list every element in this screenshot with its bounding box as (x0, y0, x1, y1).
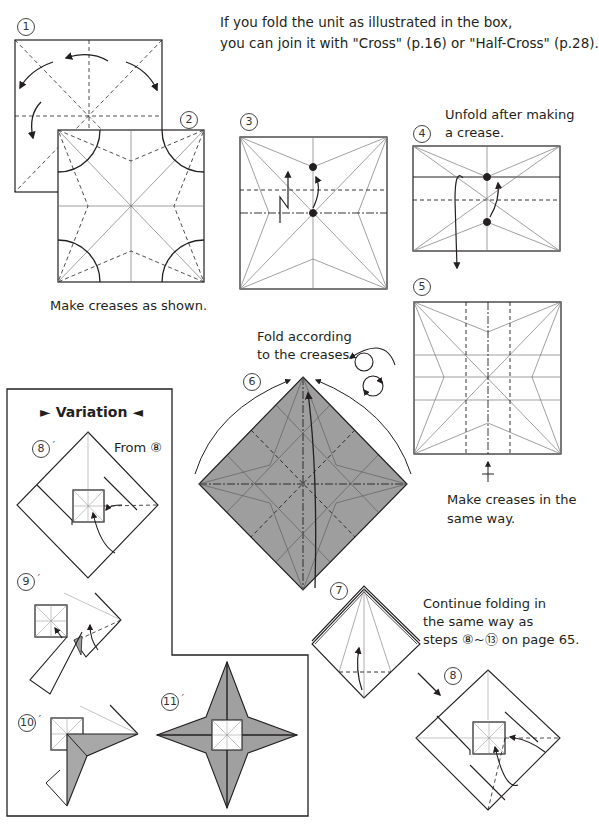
step-6-diagram (195, 348, 411, 590)
step-number-6: 6 (243, 373, 261, 391)
from-step-8-note: From ⑧ (114, 439, 162, 457)
step-6-caption-line-1: Fold according (257, 328, 352, 346)
step-7-caption-line-2: the same way as (423, 613, 533, 631)
step-number-4: 4 (413, 125, 431, 143)
step-11-prime-diagram (157, 662, 297, 808)
step-2-diagram (58, 130, 204, 282)
variation-title: ► Variation ◄ (40, 404, 143, 420)
step-4-caption-line-1: Unfold after making (445, 106, 574, 124)
step-number-10-prime: 10′ (18, 714, 36, 732)
intro-text: If you fold the unit as illustrated in t… (220, 12, 599, 54)
step-7-diagram (312, 586, 420, 698)
step-number-5: 5 (413, 278, 431, 296)
step-8-diagram (416, 670, 560, 810)
step-5-diagram (414, 302, 561, 482)
step-10-prime-diagram (46, 705, 138, 806)
step-5-caption-line-2: same way. (447, 510, 515, 528)
step-9-prime-diagram (30, 593, 121, 694)
step-4-diagram (413, 146, 560, 268)
step-number-1: 1 (17, 18, 35, 36)
step-6-caption-line-2: to the creases. (257, 346, 354, 364)
step-2-caption: Make creases as shown. (50, 297, 207, 315)
step-4-caption-line-2: a crease. (445, 124, 504, 142)
step-3-diagram (240, 137, 387, 289)
step-number-9-prime: 9′ (17, 573, 35, 591)
step-number-8-prime: 8′ (32, 440, 50, 458)
intro-line-1: If you fold the unit as illustrated in t… (220, 12, 599, 33)
step-number-2: 2 (180, 111, 198, 129)
intro-line-2: you can join it with "Cross" (p.16) or "… (220, 33, 599, 54)
step-7-caption-line-1: Continue folding in (423, 595, 546, 613)
step-5-caption-line-1: Make creases in the (447, 491, 577, 509)
step-number-8: 8 (444, 667, 462, 685)
step-number-11-prime: 11′ (161, 693, 179, 711)
step-number-7: 7 (330, 582, 348, 600)
step-7-caption-line-3: steps ⑧~⑬ on page 65. (423, 631, 579, 649)
step-number-3: 3 (240, 113, 258, 131)
